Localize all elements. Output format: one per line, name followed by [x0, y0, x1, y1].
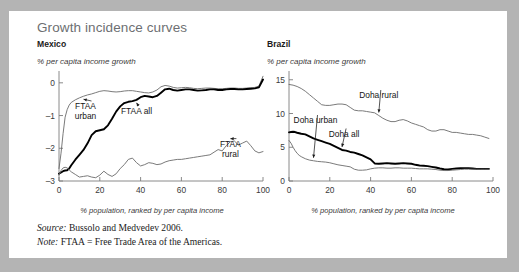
- chart-plot-mexico: 0204060801000–1–2–3FTAAurbanFTAA allFTAA…: [37, 69, 267, 207]
- source-text: Bussolo and Medvedev 2006.: [66, 222, 182, 233]
- chart-axes: [59, 71, 263, 181]
- y-tick-label: 5: [280, 142, 285, 152]
- annotation-label: FTAA: [75, 101, 96, 111]
- chart-title-brazil: Brazil: [267, 39, 290, 49]
- chart-panel-mexico: Mexico % per capita income growth 020406…: [37, 39, 267, 219]
- y-tick-label: –1: [46, 111, 56, 121]
- annotation-label: FTAA: [220, 139, 241, 149]
- source-line: Source: Bussolo and Medvedev 2006.: [37, 221, 222, 235]
- annotation-label: FTAA all: [121, 106, 152, 116]
- series-ftaa-all: [59, 80, 263, 174]
- x-tick-label: 40: [366, 185, 376, 195]
- y-tick-label: 0: [50, 78, 55, 88]
- note-text: FTAA = Free Trade Area of the Americas.: [58, 236, 222, 247]
- annotation-label: Doha all: [329, 129, 360, 139]
- series-doha-all: [289, 132, 489, 170]
- x-tick-label: 100: [486, 185, 500, 195]
- y-axis-label-mexico: % per capita income growth: [37, 57, 136, 66]
- x-tick-label: 40: [136, 185, 146, 195]
- annotation-arrowhead: [378, 109, 381, 112]
- annotation-label: Doha rural: [359, 90, 398, 100]
- y-tick-label: 0: [280, 176, 285, 186]
- x-tick-label: 80: [448, 185, 458, 195]
- note-label: Note:: [37, 236, 58, 247]
- x-axis-label-mexico: % population, ranked by per capita incom…: [37, 206, 267, 215]
- figure-card: Growth incidence curves Mexico % per cap…: [9, 11, 507, 258]
- note-line: Note: FTAA = Free Trade Area of the Amer…: [37, 235, 222, 249]
- chart-axes: [289, 71, 493, 181]
- x-tick-label: 0: [57, 185, 62, 195]
- x-tick-label: 60: [177, 185, 187, 195]
- annotation-label: Doha urban: [294, 115, 338, 125]
- annotation-arrowhead: [341, 143, 344, 147]
- chart-panel-brazil: Brazil % per capita income growth 020406…: [267, 39, 499, 219]
- y-tick-label: –2: [46, 143, 56, 153]
- x-tick-label: 80: [218, 185, 228, 195]
- chart-plot-brazil: 020406080100051015Doha ruralDoha urbanDo…: [267, 69, 497, 207]
- x-tick-label: 0: [287, 185, 292, 195]
- figure-notes: Source: Bussolo and Medvedev 2006. Note:…: [37, 221, 222, 248]
- x-tick-label: 60: [407, 185, 417, 195]
- annotation-arrowhead: [312, 154, 315, 157]
- y-tick-label: 15: [276, 75, 286, 85]
- chart-title-mexico: Mexico: [37, 39, 66, 49]
- annotation-label: rural: [222, 149, 239, 159]
- series-doha-urban: [289, 141, 489, 171]
- y-axis-label-brazil: % per capita income growth: [267, 57, 366, 66]
- x-axis-label-brazil: % population, ranked by per capita incom…: [267, 206, 499, 215]
- annotation-label: urban: [75, 111, 97, 121]
- figure-title: Growth incidence curves: [37, 20, 187, 35]
- x-tick-label: 20: [325, 185, 335, 195]
- y-tick-label: –3: [46, 176, 56, 186]
- source-label: Source:: [37, 222, 66, 233]
- y-tick-label: 10: [276, 109, 286, 119]
- x-tick-label: 20: [95, 185, 105, 195]
